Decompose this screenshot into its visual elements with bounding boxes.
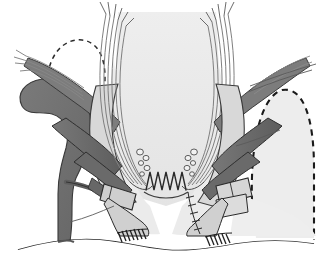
illustration-canvas: Bilateral pelvic floor surgical anatomy … <box>0 0 333 270</box>
anatomical-figure: Bilateral pelvic floor surgical anatomy … <box>0 0 333 270</box>
